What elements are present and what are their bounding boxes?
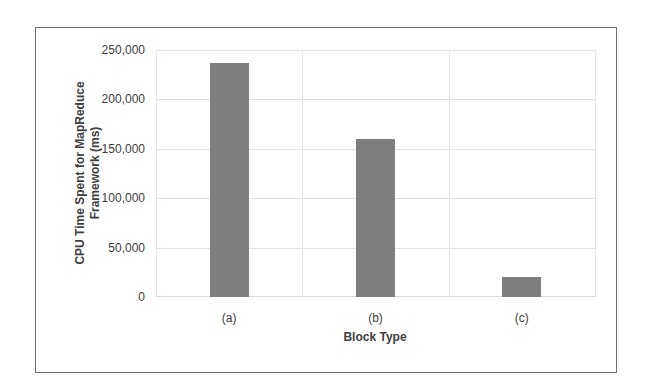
gridline-vertical (449, 50, 450, 297)
y-tick-label: 250,000 (102, 43, 145, 57)
gridline-vertical (302, 50, 303, 297)
y-tick-label: 0 (138, 290, 145, 304)
bar-c (502, 277, 541, 297)
x-tick-label: (a) (222, 311, 237, 325)
y-tick-label: 150,000 (102, 142, 145, 156)
y-tick-label: 50,000 (108, 241, 145, 255)
y-tick-label: 200,000 (102, 92, 145, 106)
y-axis-title-line-1: CPU Time Spent for MapReduce (73, 81, 88, 264)
y-tick-label: 100,000 (102, 191, 145, 205)
gridline-horizontal (156, 50, 595, 51)
y-axis-title: CPU Time Spent for MapReduce Framework (… (73, 81, 103, 264)
plot-area (156, 50, 595, 297)
x-axis-title: Block Type (343, 330, 406, 344)
y-axis-title-line-2: Framework (ms) (88, 81, 103, 264)
bar-a (210, 63, 249, 297)
gridline-vertical (156, 50, 157, 297)
x-tick-label: (b) (368, 311, 383, 325)
gridline-vertical (595, 50, 596, 297)
x-tick-label: (c) (515, 311, 529, 325)
bar-b (356, 139, 395, 297)
